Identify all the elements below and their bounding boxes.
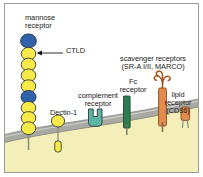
label-scavenger-receptors: scavenger receptors (SR-A I/II, MARCO): [109, 55, 197, 71]
complement-receptor[interactable]: [89, 109, 103, 126]
label-ctld: CTLD: [66, 47, 85, 55]
label-lipid-receptor: lipid receptor (CD36): [157, 91, 199, 116]
ctld-pointer: [37, 51, 64, 56]
figure-frame: mannose receptor CTLD Dectin-1 complemen…: [4, 3, 199, 173]
label-complement-receptor: complement receptor: [62, 92, 134, 108]
complement-cup: [89, 109, 103, 126]
lipid-leg: [182, 119, 183, 128]
dectin-tail: [55, 141, 61, 152]
diagram-scene: mannose receptor CTLD Dectin-1 complemen…: [5, 4, 198, 172]
mannose-bead: [21, 122, 36, 135]
label-dectin-1: Dectin-1: [50, 109, 77, 117]
label-fc-receptor: Fc receptor: [110, 78, 156, 94]
mannose-receptor[interactable]: [21, 34, 37, 150]
dectin-1-receptor[interactable]: [51, 115, 64, 152]
figure-root: mannose receptor CTLD Dectin-1 complemen…: [0, 0, 203, 177]
scavenger-head-icon: [154, 71, 170, 90]
lipid-leg: [187, 119, 188, 128]
label-mannose-receptor: mannose receptor: [25, 14, 55, 30]
mannose-cap-bead: [21, 34, 37, 48]
